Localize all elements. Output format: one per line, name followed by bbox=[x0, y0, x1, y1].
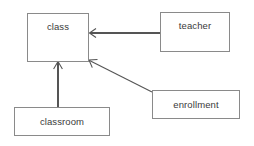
arrow-teacher-to-class bbox=[90, 29, 161, 38]
entity-label-classroom: classroom bbox=[40, 117, 84, 127]
arrow-enrollment-to-class bbox=[89, 60, 152, 93]
entity-box-enrollment[interactable]: enrollment bbox=[152, 90, 240, 119]
arrow-classroom-to-class bbox=[54, 62, 63, 108]
entity-label-enrollment: enrollment bbox=[173, 100, 218, 110]
entity-box-teacher[interactable]: teacher bbox=[160, 12, 230, 52]
entity-label-class: class bbox=[47, 22, 69, 32]
diagram-canvas: class teacher enrollment classroom bbox=[0, 0, 254, 146]
entity-box-classroom[interactable]: classroom bbox=[14, 107, 110, 136]
entity-box-class[interactable]: class bbox=[27, 13, 89, 62]
entity-label-teacher: teacher bbox=[179, 21, 211, 31]
